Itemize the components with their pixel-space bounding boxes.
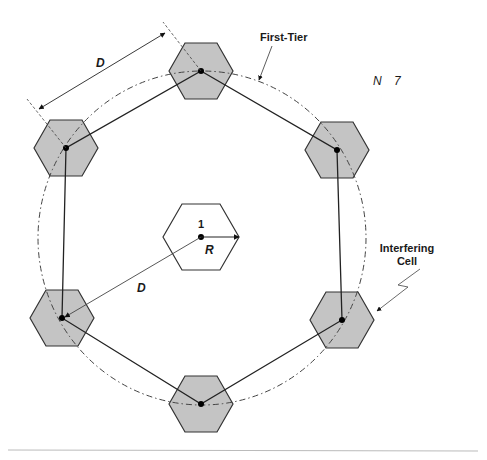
first-tier-pointer [259,46,272,80]
center-cell-number: 1 [198,218,204,230]
n-value: 7 [394,74,402,88]
d-label-top: D [96,56,105,70]
d-arrow-center [65,237,201,317]
interfering-label-line1: Interfering [380,242,434,254]
bottom-rule [8,450,478,451]
r-label: R [205,243,214,257]
cell-interference-diagram: D R 1 D First-Tier N 7 Interfering Cell [0,0,487,460]
first-tier-label: First-Tier [260,31,308,43]
d-label-center: D [137,281,146,295]
interfering-pointer [377,269,420,311]
n-label: N [373,74,382,88]
interfering-label-line2: Cell [397,255,417,267]
